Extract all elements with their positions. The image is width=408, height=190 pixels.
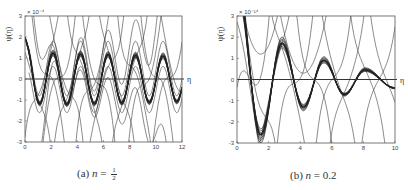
y-tick-label: 0 <box>231 77 235 83</box>
trajectory-curve <box>237 0 395 190</box>
caption-b-var: n <box>306 169 312 181</box>
x-tick-label: 2 <box>267 145 271 151</box>
trajectory-curve <box>237 0 395 190</box>
y-tick-label: 1 <box>231 55 235 61</box>
x-tick-label: 0 <box>235 145 239 151</box>
trajectory-curve <box>277 0 340 73</box>
x-axis-label: η <box>400 76 404 85</box>
trajectory-curve <box>237 0 395 190</box>
trajectory-curve <box>237 0 395 190</box>
plot-b: 0246810-3-2-10123× 10⁻¹⁴ψ(η)η <box>0 0 408 160</box>
caption-b: (b) n = 0.2 <box>290 169 337 181</box>
trajectory-curve <box>237 0 395 190</box>
trajectory-curve <box>237 22 395 190</box>
trajectory-curve <box>237 0 395 190</box>
y-multiplier: × 10⁻¹⁴ <box>239 9 259 15</box>
x-tick-label: 6 <box>330 145 334 151</box>
x-tick-label: 10 <box>392 145 399 151</box>
plot-b-curves <box>237 0 395 190</box>
trajectory-curve <box>237 0 395 190</box>
y-tick-label: -3 <box>229 140 235 146</box>
x-tick-label: 4 <box>299 145 303 151</box>
y-tick-label: 3 <box>231 13 235 19</box>
trajectory-curve <box>237 0 395 190</box>
caption-b-prefix: (b) <box>290 169 303 181</box>
y-tick-label: 2 <box>231 34 235 40</box>
figure-b: 0246810-3-2-10123× 10⁻¹⁴ψ(η)η (b) n = 0.… <box>0 0 408 190</box>
caption-b-value: 0.2 <box>323 169 337 181</box>
y-axis-label: ψ(η) <box>216 26 225 41</box>
y-tick-label: -1 <box>229 98 235 104</box>
caption-b-eq: = <box>314 169 320 181</box>
y-tick-label: -2 <box>229 119 235 125</box>
x-tick-label: 8 <box>362 145 366 151</box>
trajectory-curve <box>237 0 395 190</box>
